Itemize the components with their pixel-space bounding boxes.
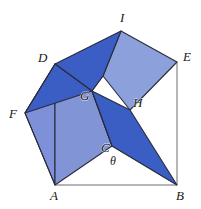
vertex-label-B: B: [176, 189, 184, 202]
geometry-figure: I D E F G H C θ A B: [0, 0, 201, 209]
angle-label-theta: θ: [110, 155, 116, 167]
figure-canvas: [0, 0, 201, 209]
vertex-label-H: H: [133, 96, 142, 109]
vertex-label-D: D: [38, 51, 47, 64]
vertex-label-G: G: [80, 89, 89, 102]
vertex-label-F: F: [9, 107, 17, 120]
vertex-label-E: E: [183, 50, 191, 63]
vertex-label-A: A: [50, 189, 58, 202]
vertex-label-C: C: [101, 141, 110, 154]
vertex-label-I: I: [120, 11, 124, 24]
